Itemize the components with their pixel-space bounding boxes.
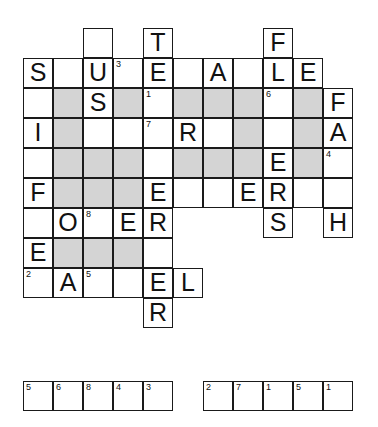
answer-cell[interactable]: 1 — [323, 381, 353, 411]
grid-cell[interactable]: S — [23, 58, 53, 88]
clue-number: 8 — [86, 209, 91, 220]
grid-letter: F — [264, 29, 292, 57]
grid-letter: E — [264, 149, 292, 177]
grid-cell[interactable] — [203, 118, 233, 148]
grid-cell[interactable] — [233, 58, 263, 88]
grid-letter: T — [144, 29, 172, 57]
grid-letter: E — [144, 269, 172, 297]
grid-cell[interactable]: F — [323, 88, 353, 118]
grid-cell[interactable]: 6 — [263, 88, 293, 118]
grid-cell[interactable]: I — [23, 118, 53, 148]
grid-cell[interactable]: A — [323, 118, 353, 148]
grid-cell[interactable]: 2 — [23, 268, 53, 298]
grid-cell[interactable]: 1 — [143, 88, 173, 118]
grid-cell[interactable] — [113, 268, 143, 298]
grid-cell[interactable] — [83, 118, 113, 148]
grid-cell[interactable]: L — [173, 268, 203, 298]
answer-cell[interactable]: 1 — [263, 381, 293, 411]
clue-number: 3 — [116, 59, 121, 70]
grid-cell[interactable]: T — [143, 28, 173, 58]
grid-cell — [53, 88, 83, 118]
answer-cell-number: 5 — [296, 382, 301, 393]
grid-cell[interactable] — [143, 238, 173, 268]
answer-cell-number: 8 — [86, 382, 91, 393]
grid-cell[interactable] — [113, 118, 143, 148]
grid-letter: E — [294, 59, 322, 87]
grid-cell — [173, 148, 203, 178]
grid-cell — [83, 238, 113, 268]
grid-cell[interactable] — [83, 28, 113, 58]
grid-cell[interactable]: E — [143, 178, 173, 208]
grid-cell — [83, 178, 113, 208]
grid-cell[interactable] — [323, 178, 353, 208]
grid-cell[interactable]: E — [113, 208, 143, 238]
grid-cell[interactable]: 7 — [143, 118, 173, 148]
grid-cell — [203, 88, 233, 118]
answer-cell[interactable]: 2 — [203, 381, 233, 411]
grid-cell[interactable] — [203, 178, 233, 208]
grid-cell[interactable]: 8 — [83, 208, 113, 238]
grid-letter: U — [84, 59, 112, 87]
answer-cell[interactable]: 4 — [113, 381, 143, 411]
answer-cell[interactable]: 8 — [83, 381, 113, 411]
grid-cell[interactable]: R — [143, 298, 173, 328]
answer-cell[interactable]: 6 — [53, 381, 83, 411]
grid-letter: A — [204, 59, 232, 87]
grid-cell[interactable]: E — [23, 238, 53, 268]
crossword-grid: TFSU3EALES16FI7RAE4FEERO8ERSHE2A5ELR — [23, 28, 353, 358]
grid-cell[interactable] — [23, 148, 53, 178]
grid-cell[interactable] — [263, 118, 293, 148]
grid-cell[interactable] — [173, 58, 203, 88]
grid-cell[interactable]: E — [143, 58, 173, 88]
grid-cell[interactable]: 4 — [323, 148, 353, 178]
grid-cell[interactable]: E — [143, 268, 173, 298]
grid-cell[interactable]: O — [53, 208, 83, 238]
grid-cell[interactable] — [293, 178, 323, 208]
grid-cell[interactable]: S — [263, 208, 293, 238]
answer-cell[interactable]: 5 — [293, 381, 323, 411]
grid-cell[interactable] — [143, 148, 173, 178]
grid-letter: E — [234, 179, 262, 207]
grid-letter: S — [84, 89, 112, 117]
grid-cell[interactable]: U — [83, 58, 113, 88]
grid-cell[interactable]: H — [323, 208, 353, 238]
grid-cell — [203, 148, 233, 178]
clue-number: 7 — [146, 119, 151, 130]
grid-cell[interactable]: E — [233, 178, 263, 208]
grid-cell — [293, 88, 323, 118]
grid-cell[interactable]: 3 — [113, 58, 143, 88]
grid-cell[interactable]: E — [263, 148, 293, 178]
grid-cell — [233, 118, 263, 148]
grid-cell[interactable]: F — [23, 178, 53, 208]
crossword-puzzle: TFSU3EALES16FI7RAE4FEERO8ERSHE2A5ELR 568… — [0, 0, 378, 427]
grid-letter: O — [54, 209, 82, 237]
grid-cell[interactable]: S — [83, 88, 113, 118]
grid-cell — [53, 118, 83, 148]
grid-cell[interactable] — [23, 88, 53, 118]
answer-cell-number: 1 — [266, 382, 271, 393]
clue-number: 6 — [266, 89, 271, 100]
answer-cell-number: 7 — [236, 382, 241, 393]
grid-letter: F — [324, 89, 352, 117]
grid-cell[interactable]: R — [173, 118, 203, 148]
grid-cell[interactable]: F — [263, 28, 293, 58]
grid-letter: R — [264, 179, 292, 207]
grid-cell[interactable] — [173, 178, 203, 208]
grid-cell[interactable] — [53, 58, 83, 88]
answer-cell[interactable]: 3 — [143, 381, 173, 411]
grid-cell[interactable]: 5 — [83, 268, 113, 298]
grid-cell[interactable]: R — [143, 208, 173, 238]
grid-cell[interactable] — [23, 208, 53, 238]
answer-cell[interactable]: 5 — [23, 381, 53, 411]
grid-cell[interactable]: E — [293, 58, 323, 88]
grid-cell[interactable]: A — [203, 58, 233, 88]
grid-cell — [233, 88, 263, 118]
answer-cell-number: 2 — [206, 382, 211, 393]
answer-cell-number: 5 — [26, 382, 31, 393]
answer-cell[interactable]: 7 — [233, 381, 263, 411]
grid-cell[interactable]: R — [263, 178, 293, 208]
grid-cell[interactable]: L — [263, 58, 293, 88]
grid-cell — [113, 238, 143, 268]
grid-cell[interactable]: A — [53, 268, 83, 298]
grid-letter: A — [54, 269, 82, 297]
